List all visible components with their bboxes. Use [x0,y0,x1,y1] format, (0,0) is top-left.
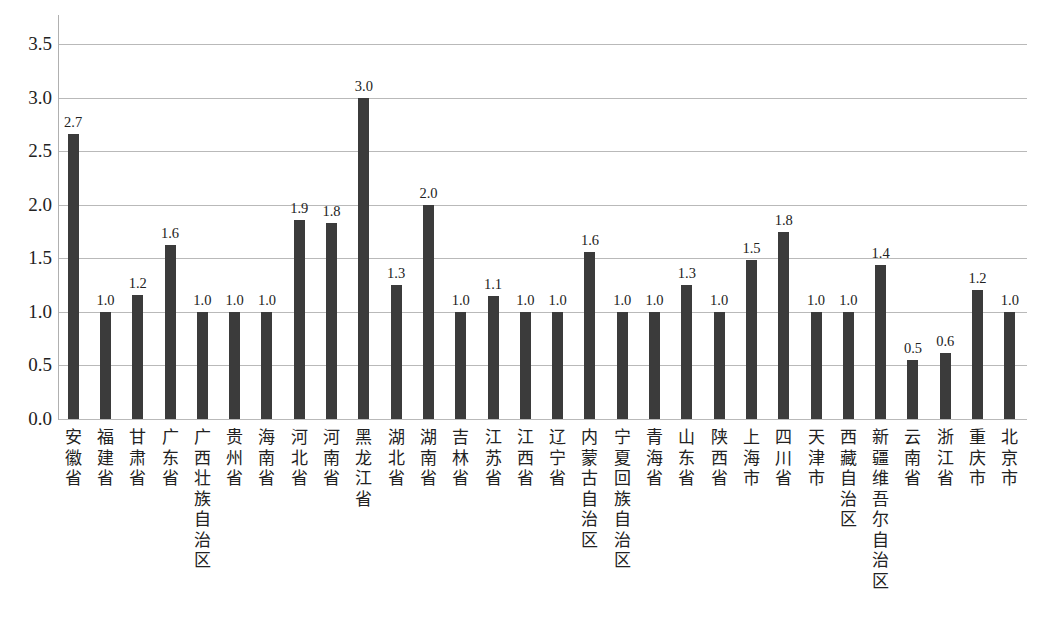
category-label: 四川省 [774,427,794,489]
bar [358,98,369,419]
category-label: 安徽省 [63,427,83,489]
gridline [58,151,1027,152]
bar-value-label: 1.0 [187,293,217,308]
bar [1004,312,1015,419]
bar-value-label: 1.0 [220,293,250,308]
category-label: 陕西省 [709,427,729,489]
category-label: 江苏省 [483,427,503,489]
bar-value-label: 1.0 [995,293,1025,308]
bar [326,223,337,419]
category-label: 内蒙古自治区 [580,427,600,550]
bar-value-label: 1.6 [575,233,605,248]
bar [617,312,628,419]
y-tick-label: 3.5 [4,34,52,54]
gridline [58,98,1027,99]
category-label: 宁夏回族自治区 [612,427,632,571]
y-tick-label: 2.0 [4,195,52,215]
category-label: 西藏自治区 [838,427,858,530]
bar [132,295,143,419]
bar [681,285,692,419]
bar [520,312,531,419]
bar [294,220,305,419]
category-label: 广东省 [160,427,180,489]
bar-value-label: 1.6 [155,226,185,241]
bar-value-label: 1.0 [640,293,670,308]
x-axis-line [58,419,1027,420]
y-tick-label: 2.5 [4,141,52,161]
bar [843,312,854,419]
category-label: 天津市 [806,427,826,489]
bar [907,360,918,419]
y-tick-label: 3.0 [4,88,52,108]
bar-value-label: 1.5 [736,241,766,256]
bar [455,312,466,419]
bar-value-label: 1.3 [381,266,411,281]
bar [584,252,595,419]
bar-value-label: 1.4 [866,246,896,261]
category-label: 湖北省 [386,427,406,489]
category-label: 新疆维吾尔自治区 [871,427,891,591]
bar-chart: 0.00.51.01.52.02.53.03.5 2.71.01.21.61.0… [0,0,1044,628]
bar-value-label: 1.2 [123,276,153,291]
bar-value-label: 1.0 [252,293,282,308]
category-label: 云南省 [903,427,923,489]
bar [100,312,111,419]
bar-value-label: 2.7 [58,115,88,130]
category-label: 福建省 [95,427,115,489]
category-label: 青海省 [645,427,665,489]
bar-value-label: 1.1 [478,277,508,292]
category-label: 吉林省 [451,427,471,489]
category-label: 上海市 [741,427,761,489]
bar [746,260,757,419]
category-label: 河北省 [289,427,309,489]
bar-value-label: 1.3 [672,266,702,281]
bar [714,312,725,419]
y-tick-label: 0.5 [4,355,52,375]
bar [165,245,176,419]
bar-value-label: 0.6 [930,334,960,349]
bar [940,353,951,419]
bar [391,285,402,419]
category-label: 湖南省 [418,427,438,489]
y-tick-label: 0.0 [4,409,52,429]
bar [649,312,660,419]
category-label: 重庆市 [968,427,988,489]
category-label: 海南省 [257,427,277,489]
y-tick-label: 1.0 [4,302,52,322]
bar-value-label: 1.0 [446,293,476,308]
bar [811,312,822,419]
bar-value-label: 1.2 [963,271,993,286]
bar [552,312,563,419]
gridline [58,44,1027,45]
bar-value-label: 2.0 [413,186,443,201]
bar-value-label: 1.0 [543,293,573,308]
bar-value-label: 1.0 [607,293,637,308]
bar-value-label: 0.5 [898,341,928,356]
y-tick-label: 1.5 [4,248,52,268]
bar-value-label: 1.0 [90,293,120,308]
category-label: 贵州省 [225,427,245,489]
bar-value-label: 1.0 [704,293,734,308]
bar [229,312,240,419]
bar-value-label: 3.0 [349,79,379,94]
bar-value-label: 1.8 [317,204,347,219]
category-label: 北京市 [1000,427,1020,489]
category-label: 山东省 [677,427,697,489]
bar [68,134,79,419]
bar-value-label: 1.0 [510,293,540,308]
bar [197,312,208,419]
bar [875,265,886,419]
category-label: 辽宁省 [548,427,568,489]
bar-value-label: 1.9 [284,201,314,216]
gridline [58,205,1027,206]
category-label: 广西壮族自治区 [192,427,212,571]
bar [261,312,272,419]
category-label: 浙江省 [935,427,955,489]
category-label: 江西省 [515,427,535,489]
bar-value-label: 1.8 [769,213,799,228]
bar [778,232,789,420]
bar-value-label: 1.0 [833,293,863,308]
category-label: 黑龙江省 [354,427,374,509]
y-axis-line [58,15,59,420]
bar [972,290,983,419]
